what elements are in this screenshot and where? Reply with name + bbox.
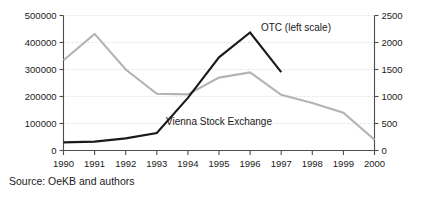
x-axis-tick-label: 1998 bbox=[302, 158, 323, 169]
x-axis-tick-label: 1993 bbox=[146, 158, 167, 169]
dual-axis-line-chart: 0100000200000300000400000500000 05001000… bbox=[0, 0, 438, 198]
right-axis bbox=[375, 16, 379, 151]
left-axis bbox=[60, 16, 64, 151]
x-axis-tick-label: 1997 bbox=[271, 158, 292, 169]
x-axis-tick-label: 1995 bbox=[208, 158, 229, 169]
chart-figure: 0100000200000300000400000500000 05001000… bbox=[0, 0, 438, 198]
left-axis-tick-label: 100000 bbox=[25, 118, 57, 129]
x-axis-tick-label: 1994 bbox=[177, 158, 198, 169]
left-axis-tick-label: 500000 bbox=[25, 10, 57, 21]
x-axis bbox=[64, 151, 375, 156]
left-axis-tick-labels: 0100000200000300000400000500000 bbox=[25, 10, 57, 156]
right-axis-tick-label: 1000 bbox=[382, 91, 403, 102]
right-axis-tick-label: 500 bbox=[382, 118, 398, 129]
left-axis-tick-label: 200000 bbox=[25, 91, 57, 102]
left-axis-tick-label: 400000 bbox=[25, 37, 57, 48]
x-axis-tick-label: 1996 bbox=[240, 158, 261, 169]
left-axis-tick-label: 300000 bbox=[25, 64, 57, 75]
left-axis-tick-label: 0 bbox=[51, 145, 56, 156]
x-axis-tick-label: 1991 bbox=[84, 158, 105, 169]
x-axis-tick-label: 1999 bbox=[333, 158, 354, 169]
source-caption: Source: OeKB and authors bbox=[9, 175, 135, 187]
series-label-otc: OTC (left scale) bbox=[261, 22, 331, 33]
x-axis-tick-labels: 1990199119921993199419951996199719981999… bbox=[53, 158, 385, 169]
right-axis-tick-label: 2500 bbox=[382, 10, 403, 21]
right-axis-tick-label: 0 bbox=[382, 145, 387, 156]
x-axis-tick-label: 1990 bbox=[53, 158, 74, 169]
series-label-vienna-stock-exchange: Vienna Stock Exchange bbox=[166, 116, 272, 127]
right-axis-tick-label: 1500 bbox=[382, 64, 403, 75]
x-axis-tick-label: 1992 bbox=[115, 158, 136, 169]
right-axis-tick-labels: 05001000150020002500 bbox=[382, 10, 403, 156]
right-axis-tick-label: 2000 bbox=[382, 37, 403, 48]
x-axis-tick-label: 2000 bbox=[364, 158, 385, 169]
